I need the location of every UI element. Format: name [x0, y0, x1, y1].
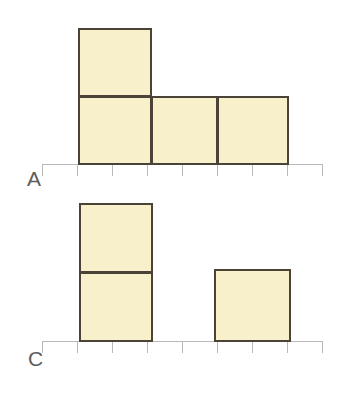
unit-square — [151, 96, 218, 165]
axis-tick — [217, 164, 218, 176]
axis-tick — [287, 341, 288, 353]
axis-tick — [322, 164, 323, 176]
unit-square — [214, 269, 291, 342]
bar-diagram-figure: AC — [0, 0, 347, 413]
axis-tick — [77, 164, 78, 176]
diagram-row-c: C — [0, 0, 347, 413]
axis-tick — [42, 164, 43, 176]
axis-tick — [287, 164, 288, 176]
axis-tick — [182, 164, 183, 176]
unit-square — [217, 96, 289, 165]
unit-square — [78, 96, 152, 165]
axis-tick — [182, 341, 183, 353]
axis-tick — [252, 341, 253, 353]
unit-square — [79, 203, 153, 273]
unit-square — [79, 272, 153, 342]
row-label-c: C — [28, 348, 43, 369]
axis-tick — [322, 341, 323, 353]
row-label-a: A — [27, 168, 41, 189]
axis-tick — [112, 341, 113, 353]
axis-tick — [77, 341, 78, 353]
unit-square — [78, 28, 152, 97]
axis-tick — [217, 341, 218, 353]
axis-tick — [112, 164, 113, 176]
axis-tick — [147, 341, 148, 353]
axis-tick — [252, 164, 253, 176]
axis-tick — [147, 164, 148, 176]
